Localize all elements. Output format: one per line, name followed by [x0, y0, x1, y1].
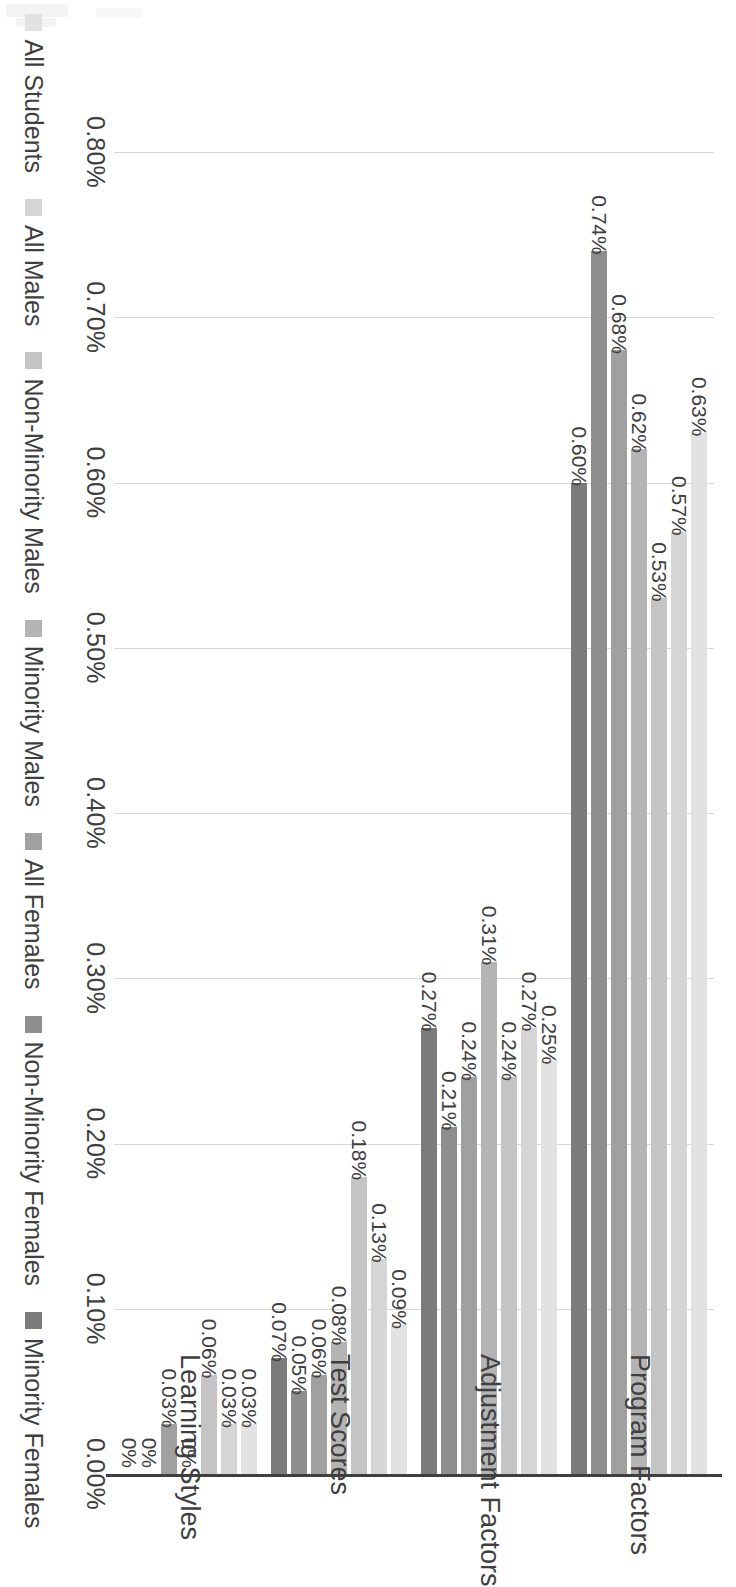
bar: 0.03%: [241, 152, 257, 1474]
axis-tick-label: 0.80%: [81, 116, 110, 188]
legend: All StudentsAll MalesNon-Minority MalesM…: [4, 0, 64, 1542]
axis-tick-label: 0.70%: [81, 281, 110, 353]
legend-item[interactable]: All Students: [20, 14, 49, 173]
legend-swatch-icon: [26, 14, 43, 31]
value-axis: 0.00%0.10%0.20%0.30%0.40%0.50%0.60%0.70%…: [56, 152, 114, 1474]
legend-swatch-icon: [26, 1312, 43, 1329]
category-label: Learning Styles: [174, 1354, 205, 1540]
legend-item[interactable]: Minority Males: [20, 620, 49, 807]
axis-tick-label: 0.60%: [81, 447, 110, 519]
bar-value-label: 0%: [117, 1418, 141, 1468]
legend-label: Non-Minority Males: [20, 378, 49, 593]
axis-tick-label: 0.40%: [81, 777, 110, 849]
axis-tick-label: 0.50%: [81, 612, 110, 684]
legend-item[interactable]: All Males: [20, 199, 49, 326]
bar: 0.03%: [161, 152, 177, 1474]
axis-tick-label: 0.00%: [81, 1438, 110, 1510]
bar: 0.03%: [221, 152, 237, 1474]
legend-label: All Students: [20, 40, 49, 173]
bar-fill: [241, 1424, 257, 1474]
bar-group: 0.03%0.03%0.06%0%0.03%0%0%: [114, 152, 714, 1474]
axis-tick-label: 0.20%: [81, 1108, 110, 1180]
legend-item[interactable]: All Females: [20, 833, 49, 990]
bar-fill: [221, 1424, 237, 1474]
legend-label: Non-Minority Females: [20, 1042, 49, 1287]
legend-label: All Females: [20, 859, 49, 990]
legend-swatch-icon: [26, 352, 43, 369]
legend-label: All Males: [20, 225, 49, 326]
axis-tick-label: 0.30%: [81, 942, 110, 1014]
bar: 0%: [181, 152, 197, 1474]
legend-swatch-icon: [26, 833, 43, 850]
legend-swatch-icon: [26, 620, 43, 637]
legend-swatch-icon: [26, 1016, 43, 1033]
legend-swatch-icon: [26, 199, 43, 216]
bar: 0.06%: [201, 152, 217, 1474]
legend-label: Minority Males: [20, 646, 49, 807]
legend-item[interactable]: Non-Minority Males: [20, 352, 49, 593]
plot-area: 0.63%0.57%0.53%0.62%0.68%0.74%0.60%Progr…: [114, 152, 714, 1474]
legend-item[interactable]: Minority Females: [20, 1312, 49, 1528]
legend-label: Minority Females: [20, 1338, 49, 1528]
bar: 0%: [121, 152, 137, 1474]
legend-item[interactable]: Non-Minority Females: [20, 1016, 49, 1287]
bar: 0%: [141, 152, 157, 1474]
axis-tick-label: 0.10%: [81, 1273, 110, 1345]
